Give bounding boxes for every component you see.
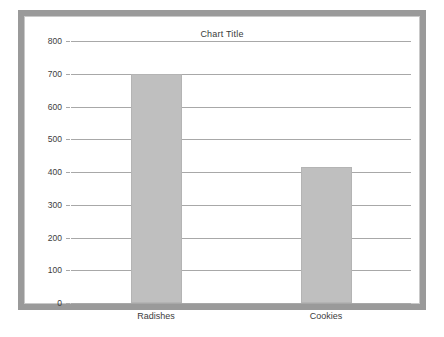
bar	[301, 167, 352, 303]
y-axis-tick-mark	[66, 107, 70, 108]
y-axis-tick-label: 300	[48, 200, 62, 210]
plot-area: 8007006005004003002001000RadishesCookies	[71, 41, 411, 303]
gridline	[71, 139, 411, 140]
chart-plot-container: Chart Title 8007006005004003002001000Rad…	[24, 16, 420, 304]
y-axis-tick-label: 100	[48, 265, 62, 275]
chart-title: Chart Title	[25, 29, 419, 39]
x-axis-tick-label: Radishes	[137, 311, 175, 321]
y-axis-tick-label: 0	[57, 298, 62, 308]
gridline	[71, 41, 411, 42]
gridline	[71, 238, 411, 239]
x-axis-tick-label: Cookies	[310, 311, 343, 321]
y-axis-tick-mark	[66, 172, 70, 173]
y-axis-tick-label: 600	[48, 102, 62, 112]
y-axis-tick-label: 700	[48, 69, 62, 79]
y-axis-tick-label: 800	[48, 36, 62, 46]
gridline	[71, 107, 411, 108]
y-axis-tick-mark	[66, 270, 70, 271]
y-axis-tick-label: 400	[48, 167, 62, 177]
y-axis-tick-mark	[66, 303, 70, 304]
y-axis-tick-label: 500	[48, 134, 62, 144]
y-axis-tick-mark	[66, 139, 70, 140]
gridline	[71, 172, 411, 173]
y-axis-tick-label: 200	[48, 233, 62, 243]
y-axis-tick-mark	[66, 41, 70, 42]
y-axis-tick-mark	[66, 238, 70, 239]
y-axis-tick-mark	[66, 205, 70, 206]
y-axis-tick-mark	[66, 74, 70, 75]
gridline	[71, 303, 411, 304]
gridline	[71, 74, 411, 75]
bar	[131, 74, 182, 303]
gridline	[71, 270, 411, 271]
gridline	[71, 205, 411, 206]
chart-frame: Chart Title 8007006005004003002001000Rad…	[18, 10, 426, 310]
